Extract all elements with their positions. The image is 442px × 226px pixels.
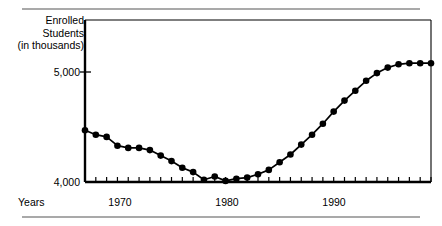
data-point-marker: [147, 147, 154, 154]
data-point-marker: [93, 131, 100, 138]
data-point-marker: [255, 171, 262, 178]
data-point-marker: [103, 134, 110, 141]
data-point-marker: [190, 169, 197, 176]
y-axis-label-line-1: Enrolled: [12, 14, 84, 27]
data-point-marker: [352, 87, 359, 94]
data-point-marker: [125, 145, 132, 152]
x-tick-label-1990: 1990: [312, 196, 356, 209]
data-point-marker: [287, 151, 294, 158]
data-point-marker: [244, 174, 251, 181]
y-axis-label: Enrolled Students (in thousands): [12, 14, 84, 52]
data-point-marker: [320, 120, 327, 127]
data-point-marker: [406, 60, 413, 67]
x-tick-label-1970: 1970: [98, 196, 142, 209]
data-point-marker: [428, 60, 435, 67]
data-point-marker: [309, 131, 316, 138]
data-point-marker: [233, 175, 240, 182]
data-point-marker: [201, 177, 208, 184]
data-point-marker: [222, 178, 229, 185]
y-axis-label-line-3: (in thousands): [12, 39, 84, 52]
data-point-marker: [266, 167, 273, 174]
y-axis-label-line-2: Students: [12, 27, 84, 40]
data-point-marker: [82, 127, 89, 134]
data-point-marker: [276, 159, 283, 166]
data-point-marker: [168, 158, 175, 165]
data-point-marker: [374, 70, 381, 77]
data-point-marker: [384, 64, 391, 71]
x-tick-label-1980: 1980: [205, 196, 249, 209]
data-point-marker: [114, 142, 121, 149]
data-point-marker: [417, 60, 424, 67]
data-point-marker: [395, 61, 402, 68]
y-tick-label-5000: 5,000: [34, 66, 80, 79]
data-point-marker: [330, 108, 337, 115]
data-point-marker: [341, 97, 348, 104]
data-point-markers: [82, 60, 435, 184]
data-point-marker: [179, 164, 186, 171]
y-tick-label-4000: 4,000: [34, 176, 80, 189]
data-point-marker: [211, 173, 218, 180]
data-point-marker: [298, 141, 305, 148]
chart-figure: Enrolled Students (in thousands) 5,000 4…: [0, 0, 442, 226]
data-point-marker: [136, 145, 143, 152]
chart-axes: [80, 20, 431, 182]
data-point-marker: [363, 78, 370, 85]
data-point-marker: [157, 152, 164, 159]
data-line: [85, 63, 431, 181]
x-axis-title: Years: [18, 196, 44, 209]
